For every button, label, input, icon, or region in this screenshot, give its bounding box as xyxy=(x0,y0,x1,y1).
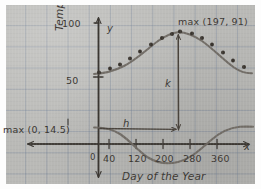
annotation-max-left: max (0, 14.5) xyxy=(3,124,70,135)
temperature-curve xyxy=(94,32,252,74)
x-tick-label-280: 280 xyxy=(183,153,202,164)
x-tick-label-200: 200 xyxy=(155,153,174,164)
x-axis-title: Day of the Year xyxy=(122,170,206,182)
annotation-max-right: max (197, 91) xyxy=(178,16,248,27)
origin-label: 0 xyxy=(90,152,96,162)
h-arrow xyxy=(99,129,176,130)
y-axis-title: Temperature xyxy=(53,5,65,31)
graph-paper: max (197, 91) 100 50 y x k h 0 Temperatu… xyxy=(6,5,255,184)
x-tick-label-120: 120 xyxy=(128,153,147,164)
y-axis-name: y xyxy=(107,23,113,34)
h-label: h xyxy=(123,118,130,129)
x-tick-label-360: 360 xyxy=(211,153,230,164)
x-tick-label-40: 40 xyxy=(103,153,116,164)
x-axis-name: x xyxy=(244,141,250,152)
k-label: k xyxy=(165,78,171,89)
y-tick-label-50: 50 xyxy=(66,75,79,86)
screenshot-root: max (197, 91) 100 50 y x k h 0 Temperatu… xyxy=(0,0,261,189)
